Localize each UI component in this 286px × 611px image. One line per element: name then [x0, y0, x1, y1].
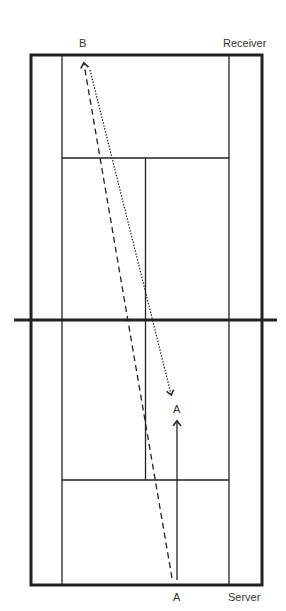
- label-server: Server: [228, 591, 260, 603]
- dotted-shot-path: [90, 70, 171, 394]
- label-b: B: [79, 37, 86, 49]
- label-a-bottom: A: [173, 591, 180, 603]
- court-diagram: [0, 0, 286, 611]
- label-receiver: Receiver: [223, 37, 266, 49]
- label-a-mid: A: [173, 403, 180, 415]
